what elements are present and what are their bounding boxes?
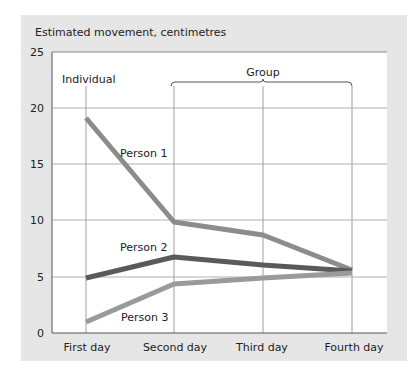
line-chart: 0 5 10 15 20 25 First day Second day Thi… xyxy=(0,0,419,376)
y-tick-10: 10 xyxy=(30,214,44,227)
person-1-label: Person 1 xyxy=(120,147,167,160)
group-label: Group xyxy=(246,66,280,79)
person-2-label: Person 2 xyxy=(120,241,167,254)
person-3-label: Person 3 xyxy=(121,311,168,324)
plot-area xyxy=(52,52,387,333)
y-tick-15: 15 xyxy=(30,158,44,171)
y-tick-5: 5 xyxy=(37,271,44,284)
x-tick-fourth-day: Fourth day xyxy=(324,341,384,354)
x-tick-third-day: Third day xyxy=(235,341,288,354)
y-tick-0: 0 xyxy=(37,327,44,340)
individual-label: Individual xyxy=(62,73,116,86)
x-tick-second-day: Second day xyxy=(143,341,208,354)
x-tick-first-day: First day xyxy=(64,341,111,354)
y-tick-20: 20 xyxy=(30,102,44,115)
y-tick-25: 25 xyxy=(30,46,44,59)
